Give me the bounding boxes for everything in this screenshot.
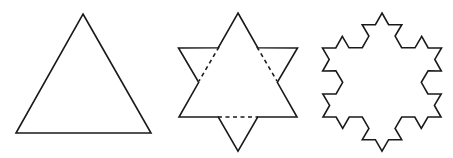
snowflake-iteration-2 [323,13,442,151]
dashed-edge-0 [199,47,219,81]
star-iteration-1 [179,13,298,151]
star-hidden-edges [199,47,277,117]
koch-snowflake-figure [0,0,453,158]
triangle-iteration-0 [16,14,151,133]
dashed-edge-1 [257,47,277,81]
